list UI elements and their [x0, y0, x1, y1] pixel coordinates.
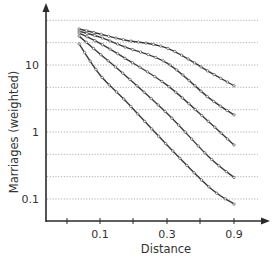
data-point-marker	[78, 35, 80, 37]
data-point-marker	[164, 110, 166, 112]
data-point-marker	[124, 57, 126, 59]
data-point-marker	[193, 172, 195, 174]
data-point-marker	[122, 39, 124, 41]
data-point-marker	[92, 47, 94, 49]
data-point-marker	[208, 186, 210, 188]
data-point-marker	[226, 138, 228, 140]
data-point-marker	[89, 60, 91, 62]
data-point-marker	[200, 179, 202, 181]
data-point-marker	[94, 39, 96, 41]
data-point-marker	[179, 157, 181, 159]
data-point-marker	[109, 48, 111, 50]
data-point-marker	[225, 170, 227, 172]
data-point-marker	[137, 41, 139, 43]
data-point-marker	[78, 43, 80, 45]
data-point-marker	[107, 35, 109, 37]
data-point-marker	[123, 98, 125, 100]
data-point-marker	[186, 164, 188, 166]
x-axis-title: Distance	[141, 242, 191, 256]
data-point-marker	[143, 91, 145, 93]
data-point-marker	[171, 117, 173, 119]
series-lines	[78, 28, 235, 206]
data-point-marker	[160, 45, 162, 47]
data-point-marker	[86, 32, 88, 34]
x-axis-arrow-icon	[261, 218, 270, 225]
data-point-marker	[197, 145, 199, 147]
data-point-marker	[194, 85, 196, 87]
data-point-marker	[188, 79, 190, 81]
data-point-marker	[101, 76, 103, 78]
data-point-marker	[184, 131, 186, 133]
y-axis	[43, 3, 50, 222]
data-point-marker	[101, 44, 103, 46]
data-point-marker	[172, 150, 174, 152]
data-point-marker	[116, 52, 118, 54]
data-point-marker	[94, 34, 96, 36]
data-point-marker	[201, 114, 203, 116]
data-point-marker	[157, 135, 159, 137]
data-point-marker	[206, 70, 208, 72]
data-point-marker	[147, 53, 149, 55]
data-point-marker	[129, 78, 131, 80]
data-point-marker	[146, 71, 148, 73]
data-point-marker	[168, 85, 170, 87]
data-point-marker	[180, 54, 182, 56]
data-point-marker	[122, 72, 124, 74]
data-point-marker	[85, 30, 87, 32]
data-point-marker	[194, 108, 196, 110]
data-point-marker	[100, 33, 102, 35]
data-point-marker	[161, 80, 163, 82]
x-axis	[46, 218, 270, 225]
data-point-marker	[130, 105, 132, 107]
data-point-marker	[131, 62, 133, 64]
data-point-marker	[85, 41, 87, 43]
data-point-marker	[116, 43, 118, 45]
data-point-marker	[83, 51, 85, 53]
data-point-marker	[150, 97, 152, 99]
data-point-marker	[200, 66, 202, 68]
data-point-marker	[181, 97, 183, 99]
y-tick-label-1: 1	[32, 126, 39, 139]
data-point-marker	[212, 100, 214, 102]
data-point-marker	[204, 152, 206, 154]
data-point-marker	[78, 32, 80, 34]
data-point-marker	[226, 81, 228, 83]
data-point-marker	[187, 58, 189, 60]
data-point-marker	[155, 56, 157, 58]
data-point-marker	[115, 91, 117, 93]
data-point-marker	[175, 91, 177, 93]
data-point-marker	[124, 46, 126, 48]
data-point-marker	[220, 77, 222, 79]
data-point-marker	[182, 74, 184, 76]
y-axis-title: Marriages (weighted)	[7, 71, 21, 194]
data-point-marker	[100, 54, 102, 56]
data-point-marker	[169, 64, 171, 66]
x-tick-label-0.9: 0.9	[225, 228, 243, 241]
data-point-marker	[136, 85, 138, 87]
data-point-marker	[233, 144, 235, 146]
data-point-marker	[132, 48, 134, 50]
data-point-marker	[114, 66, 116, 68]
series-line-3	[79, 33, 234, 145]
data-point-marker	[193, 62, 195, 64]
data-point-marker	[167, 47, 169, 49]
data-point-marker	[226, 109, 228, 111]
y-tick-label-0.1: 0.1	[22, 193, 40, 206]
data-point-marker	[109, 40, 111, 42]
data-point-marker	[93, 31, 95, 33]
data-point-marker	[152, 43, 154, 45]
data-point-marker	[213, 73, 215, 75]
data-point-marker	[224, 198, 226, 200]
data-point-marker	[108, 84, 110, 86]
data-point-marker	[200, 90, 202, 92]
data-point-marker	[219, 105, 221, 107]
data-point-marker	[190, 138, 192, 140]
data-point-marker	[233, 176, 235, 178]
y-axis-arrow-icon	[43, 3, 50, 12]
data-point-marker	[233, 203, 235, 205]
x-tick-label-0.1: 0.1	[91, 228, 109, 241]
data-point-marker	[174, 50, 176, 52]
data-point-marker	[214, 126, 216, 128]
data-point-marker	[154, 75, 156, 77]
x-tick-label-0.3: 0.3	[158, 228, 176, 241]
